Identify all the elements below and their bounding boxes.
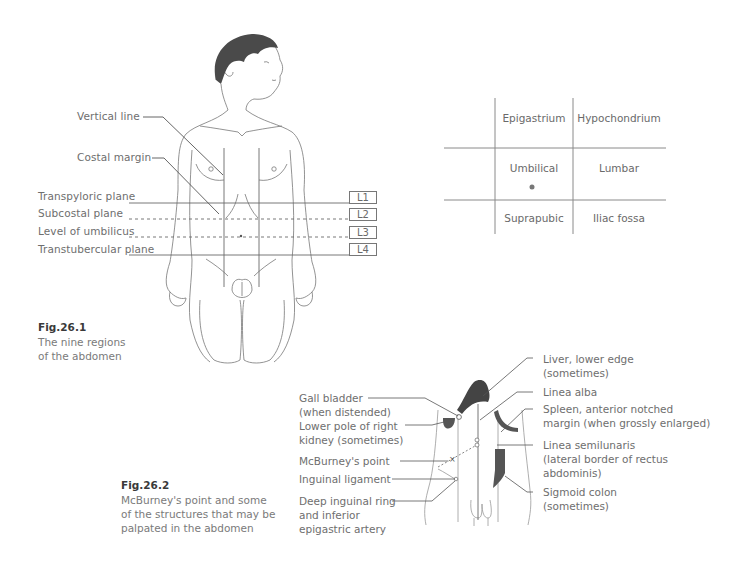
kidney: [443, 418, 455, 429]
label-line: and inferior: [299, 508, 396, 522]
liver: [457, 380, 490, 414]
label-gall-bladder: Gall bladder (when distended): [299, 391, 391, 419]
figure1-number: Fig.26.1: [38, 321, 86, 333]
label-line: kidney (sometimes): [299, 433, 403, 447]
figure1-caption-line2: of the abdomen: [38, 350, 122, 363]
plane-label-transtubercular: Transtubercular plane: [38, 243, 154, 256]
plane-label-subcostal: Subcostal plane: [38, 207, 123, 220]
label-mcburneys-point: McBurney's point: [299, 454, 390, 468]
figure2-number: Fig.26.2: [121, 479, 169, 491]
plane-label-transpyloric: Transpyloric plane: [38, 190, 135, 203]
figure1-caption-line1: The nine regions: [38, 336, 126, 349]
label-line: (sometimes): [543, 366, 634, 380]
label-linea-alba: Linea alba: [543, 385, 597, 399]
vertical-lines: [224, 148, 259, 287]
figure2-caption-line3: palpated in the abdomen: [121, 522, 254, 535]
label-line: Deep inguinal ring: [299, 494, 396, 508]
region-umbilical: Umbilical: [495, 162, 573, 174]
figure1-body-outline: [166, 36, 316, 363]
region-iliac-fossa: Iliac fossa: [573, 212, 665, 224]
sigmoid-colon: [493, 449, 505, 488]
label-line: abdominis): [543, 466, 668, 480]
label-deep-inguinal-ring: Deep inguinal ring and inferior epigastr…: [299, 494, 396, 536]
label-line: Inguinal ligament: [299, 472, 391, 486]
umbilical-dot: [530, 185, 535, 190]
vertebral-level-L1: L1: [349, 191, 377, 204]
callout-vertical-line: Vertical line: [77, 110, 140, 123]
label-line: Liver, lower edge: [543, 352, 634, 366]
label-inguinal-ligament: Inguinal ligament: [299, 472, 391, 486]
label-line: Linea alba: [543, 385, 597, 399]
label-line: Sigmoid colon: [543, 485, 617, 499]
label-line: Spleen, anterior notched: [543, 402, 710, 416]
plane-lines: [129, 203, 349, 255]
label-line: epigastric artery: [299, 522, 396, 536]
vertebral-level-L3: L3: [349, 226, 377, 239]
label-line: (sometimes): [543, 499, 617, 513]
callout-costal-margin: Costal margin: [77, 151, 151, 164]
label-right-kidney: Lower pole of right kidney (sometimes): [299, 419, 403, 447]
leader-lines: [143, 117, 223, 214]
vertebral-level-L2: L2: [349, 208, 377, 221]
label-spleen: Spleen, anterior notched margin (when gr…: [543, 402, 710, 430]
mcburney-point-mark: ×: [449, 455, 456, 464]
label-line: Gall bladder: [299, 391, 391, 405]
label-line: Linea semilunaris: [543, 438, 668, 452]
label-liver: Liver, lower edge (sometimes): [543, 352, 634, 380]
vertebral-level-L4: L4: [349, 243, 377, 256]
label-sigmoid-colon: Sigmoid colon (sometimes): [543, 485, 617, 513]
region-hypochondrium: Hypochondrium: [573, 112, 665, 124]
label-line: Lower pole of right: [299, 419, 403, 433]
mcburney-line: [438, 446, 475, 467]
label-line: (when distended): [299, 405, 391, 419]
label-line: McBurney's point: [299, 454, 390, 468]
region-suprapubic: Suprapubic: [495, 212, 573, 224]
region-epigastrium: Epigastrium: [495, 112, 573, 124]
figure2-caption-line2: of the structures that may be: [121, 508, 276, 521]
figure2-caption-line1: McBurney's point and some: [121, 494, 267, 507]
region-lumbar: Lumbar: [573, 162, 665, 174]
label-line: (lateral border of rectus: [543, 452, 668, 466]
hair: [215, 34, 278, 84]
plane-label-umbilicus: Level of umbilicus: [38, 225, 135, 238]
label-line: margin (when grossly enlarged): [543, 416, 710, 430]
label-linea-semilunaris: Linea semilunaris (lateral border of rec…: [543, 438, 668, 480]
umbilicus-dot: [240, 235, 242, 237]
